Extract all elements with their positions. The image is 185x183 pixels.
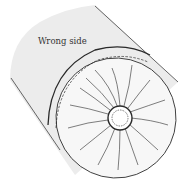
wrong-side-label: Wrong side [38,36,87,46]
tube-illustration [0,0,185,183]
gathered-center-inner [112,110,128,126]
gathered-tube-diagram: Wrong side [0,0,185,183]
